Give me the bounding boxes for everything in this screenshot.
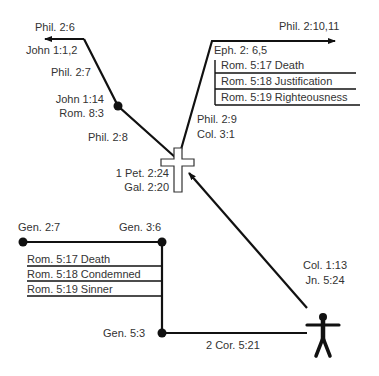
label-gen-3-6: Gen. 3:6: [119, 221, 161, 234]
label-phil-2-10-11: Phil. 2:10,11: [279, 20, 339, 33]
salvation-arrow: [189, 173, 307, 308]
label-gen-5-3: Gen. 5:3: [103, 327, 145, 340]
label-john-1-1-2: John 1:1,2: [26, 44, 77, 57]
label-phil-2-7: Phil. 2:7: [51, 66, 91, 79]
incarnation-dot: [114, 102, 123, 111]
label-2-cor-5-21: 2 Cor. 5:21: [206, 339, 260, 352]
eph-table-row-3: Rom. 5:19 Righteousness: [221, 91, 348, 104]
label-phil-2-8: Phil. 2:8: [88, 131, 128, 144]
label-eph-2-6-5: Eph. 2: 6,5: [214, 44, 267, 57]
label-col-3-1: Col. 3:1: [197, 128, 235, 141]
label-1-pet-2-24: 1 Pet. 2:24: [100, 167, 169, 180]
label-phil-2-6: Phil. 2:6: [35, 21, 75, 34]
label-gen-2-7: Gen. 2:7: [18, 221, 60, 234]
adam-table-row-3: Rom. 5:19 Sinner: [27, 283, 113, 296]
eph-table-row-2: Rom. 5:18 Justification: [221, 75, 332, 88]
label-jn-5-24: Jn. 5:24: [290, 274, 360, 287]
label-col-1-13: Col. 1:13: [290, 259, 360, 272]
gen-2-7-dot: [19, 238, 28, 247]
label-rom-8-3: Rom. 8:3: [48, 107, 104, 120]
gen-5-3-dot: [158, 329, 167, 338]
adam-table-row-1: Rom. 5:17 Death: [27, 253, 110, 266]
adam-table-row-2: Rom. 5:18 Condemned: [27, 268, 141, 281]
label-john-1-14: John 1:14: [48, 93, 104, 106]
adam-descent-line: [162, 242, 307, 333]
label-gal-2-20: Gal. 2:20: [100, 181, 169, 194]
person-icon: [307, 313, 339, 356]
label-phil-2-9: Phil. 2:9: [197, 113, 237, 126]
eph-table-row-1: Rom. 5:17 Death: [221, 59, 304, 72]
gen-3-6-dot: [158, 238, 167, 247]
